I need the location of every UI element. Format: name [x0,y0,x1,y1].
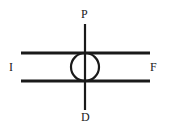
label-right-f: F [150,61,157,73]
diagram-canvas: P D I F [0,0,170,132]
label-left-i: I [9,61,13,73]
label-bottom-d: D [81,111,90,123]
label-top-p: P [81,8,88,20]
